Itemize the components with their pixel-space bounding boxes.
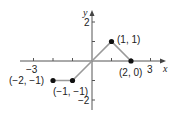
tick-label-y-2: 2 <box>84 17 90 28</box>
point-label-neg1-neg1: (−1, −1) <box>53 86 88 97</box>
point-label-neg2-neg1: (−2, −1) <box>9 75 44 86</box>
point-1-1 <box>109 39 114 44</box>
point-neg2-neg1 <box>50 78 55 83</box>
point-label-2-0: (2, 0) <box>119 67 142 78</box>
tick-label-x-3: 3 <box>147 64 153 75</box>
point-label-1-1: (1, 1) <box>117 34 140 45</box>
point-2-0 <box>128 58 133 63</box>
point-neg1-neg1 <box>70 78 75 83</box>
x-axis-label: x <box>162 63 168 74</box>
y-axis-arrow-icon <box>90 10 95 16</box>
tick-label-x-neg3: −3 <box>26 64 38 75</box>
piecewise-graph: y x −3 3 2 −2 (−2, −1) (−1, −1) (1, 1) (… <box>0 0 176 117</box>
